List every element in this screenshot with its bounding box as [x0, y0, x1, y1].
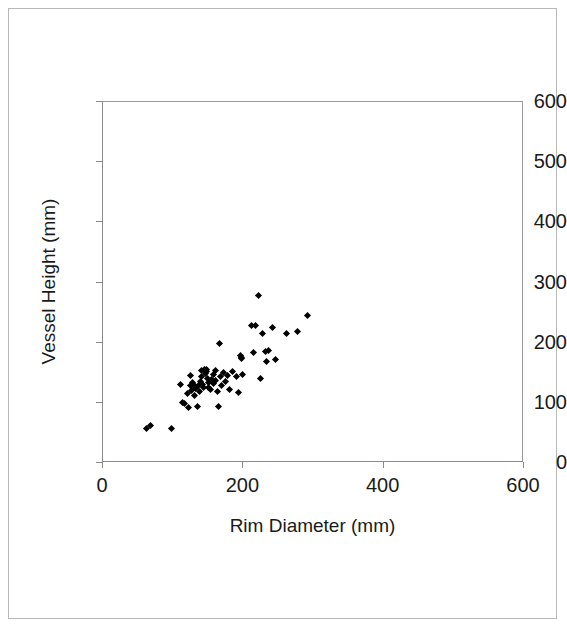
data-point: [235, 388, 242, 395]
scatter-points-layer: [103, 102, 522, 461]
y-tick-mark: [96, 101, 102, 102]
data-point: [147, 422, 154, 429]
data-point: [269, 324, 276, 331]
data-point: [226, 385, 233, 392]
x-tick-label: 200: [202, 474, 282, 496]
y-tick-label: 400: [479, 211, 567, 231]
data-point: [216, 340, 223, 347]
data-point: [304, 312, 311, 319]
x-tick-label: 0: [62, 474, 142, 496]
data-point: [238, 354, 245, 361]
data-point: [214, 388, 221, 395]
y-tick-mark: [96, 342, 102, 343]
x-tick-label: 400: [343, 474, 423, 496]
data-point: [252, 322, 259, 329]
y-tick-mark: [96, 402, 102, 403]
data-point: [177, 381, 184, 388]
y-tick-label: 600: [479, 91, 567, 111]
x-tick-mark: [523, 462, 524, 468]
x-axis-title: Rim Diameter (mm): [102, 514, 523, 538]
y-tick-mark: [96, 282, 102, 283]
data-point: [259, 329, 266, 336]
y-axis-title: Vessel Height (mm): [34, 101, 64, 462]
data-point: [283, 329, 290, 336]
data-point: [239, 371, 246, 378]
plot-area: [102, 101, 523, 462]
data-point: [263, 358, 270, 365]
y-tick-label: 300: [479, 272, 567, 292]
data-point: [193, 403, 200, 410]
data-point: [294, 328, 301, 335]
data-point: [272, 356, 279, 363]
x-tick-mark: [242, 462, 243, 468]
x-tick-mark: [383, 462, 384, 468]
y-tick-mark: [96, 221, 102, 222]
y-tick-label: 100: [479, 392, 567, 412]
scatter-chart: 0100200300400500600 0200400600 Rim Diame…: [0, 0, 567, 627]
data-point: [168, 425, 175, 432]
data-point: [185, 404, 192, 411]
data-point: [186, 372, 193, 379]
x-tick-mark: [102, 462, 103, 468]
y-tick-label: 200: [479, 332, 567, 352]
y-tick-mark: [96, 161, 102, 162]
y-tick-label: 500: [479, 151, 567, 171]
data-point: [257, 375, 264, 382]
x-tick-label: 600: [483, 474, 563, 496]
data-point: [255, 292, 262, 299]
data-point: [250, 349, 257, 356]
data-point: [215, 403, 222, 410]
